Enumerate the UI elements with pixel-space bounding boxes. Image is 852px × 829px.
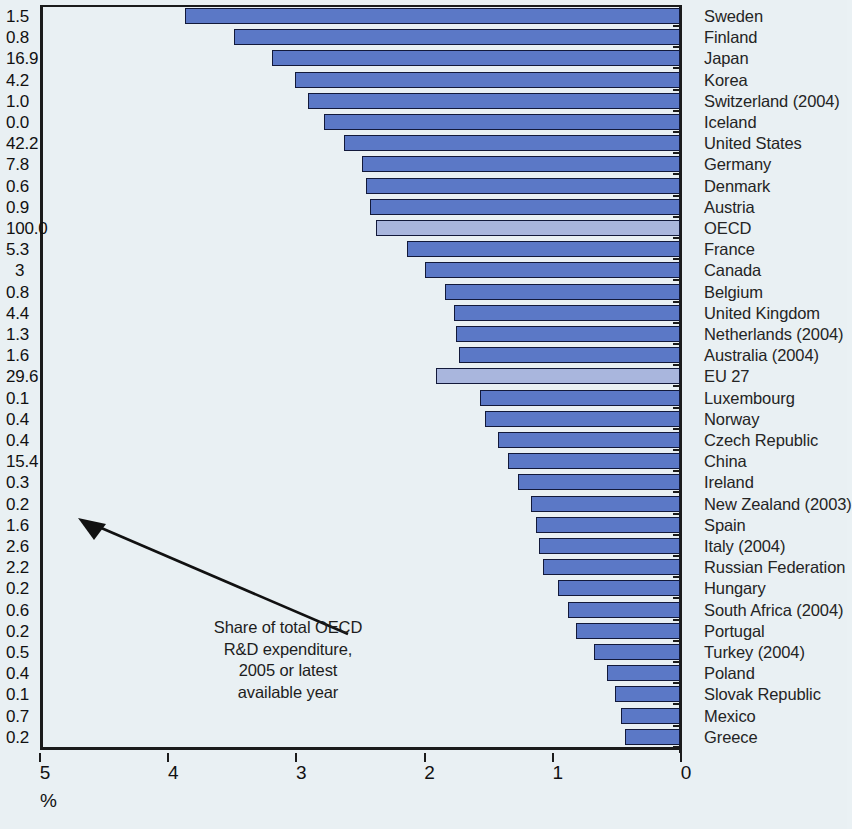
bar bbox=[308, 93, 680, 109]
category-label: Denmark bbox=[704, 176, 770, 197]
chart-row: 0.0Iceland bbox=[0, 112, 847, 133]
category-label: Finland bbox=[704, 27, 757, 48]
category-label: Portugal bbox=[704, 621, 765, 642]
share-value: 0.5 bbox=[6, 642, 84, 663]
x-axis-tick bbox=[552, 753, 554, 762]
bar bbox=[362, 156, 680, 172]
chart-row: 0.9Austria bbox=[0, 197, 847, 218]
bar bbox=[324, 114, 680, 130]
category-label: Belgium bbox=[704, 282, 763, 303]
category-label: Italy (2004) bbox=[704, 536, 785, 557]
share-value: 0.4 bbox=[6, 430, 84, 451]
bar bbox=[508, 453, 680, 469]
x-axis-tick bbox=[39, 753, 41, 762]
chart-row: 1.6Australia (2004) bbox=[0, 345, 847, 366]
x-axis-tick bbox=[680, 753, 682, 762]
category-label: Poland bbox=[704, 663, 755, 684]
category-label: Turkey (2004) bbox=[704, 642, 805, 663]
bar bbox=[370, 199, 680, 215]
category-label: Spain bbox=[704, 515, 746, 536]
bar bbox=[234, 29, 680, 45]
bar bbox=[607, 665, 680, 681]
category-label: Switzerland (2004) bbox=[704, 91, 840, 112]
category-label: France bbox=[704, 239, 755, 260]
share-value: 0.1 bbox=[6, 684, 84, 705]
share-value: 4.2 bbox=[6, 70, 84, 91]
bar bbox=[576, 623, 680, 639]
category-label: Ireland bbox=[704, 472, 754, 493]
share-value: 0.4 bbox=[6, 409, 84, 430]
bar bbox=[594, 644, 680, 660]
chart-row: 1.3Netherlands (2004) bbox=[0, 324, 847, 345]
share-value: 42.2 bbox=[6, 133, 84, 154]
chart-row: 1.5Sweden bbox=[0, 6, 847, 27]
annotation-line-4: available year bbox=[172, 682, 404, 704]
category-label: Netherlands (2004) bbox=[704, 324, 843, 345]
category-label: Luxembourg bbox=[704, 388, 795, 409]
bar bbox=[425, 262, 680, 278]
share-value: 4.4 bbox=[6, 303, 84, 324]
bar bbox=[568, 602, 680, 618]
bar bbox=[485, 411, 680, 427]
chart-row: 0.7Mexico bbox=[0, 706, 847, 727]
bar bbox=[407, 241, 680, 257]
share-value: 0.4 bbox=[6, 663, 84, 684]
share-value: 0.1 bbox=[6, 388, 84, 409]
row-tick bbox=[673, 746, 682, 748]
share-value: 29.6 bbox=[6, 366, 84, 387]
chart-row: 0.5Turkey (2004) bbox=[0, 642, 847, 663]
share-value: 1.0 bbox=[6, 91, 84, 112]
bar bbox=[366, 178, 680, 194]
bar bbox=[625, 729, 680, 745]
annotation-line-2: R&D expenditure, bbox=[172, 639, 404, 661]
bar bbox=[480, 390, 680, 406]
bar bbox=[539, 538, 680, 554]
share-value: 3 bbox=[6, 260, 93, 281]
share-value: 0.0 bbox=[6, 112, 84, 133]
chart-row: 4.2Korea bbox=[0, 70, 847, 91]
bar bbox=[459, 347, 680, 363]
bar bbox=[615, 686, 680, 702]
share-value: 15.4 bbox=[6, 451, 84, 472]
category-label: United States bbox=[704, 133, 802, 154]
bar bbox=[498, 432, 680, 448]
category-label: Canada bbox=[704, 260, 761, 281]
bar bbox=[436, 368, 680, 384]
x-axis-tick-label: 4 bbox=[168, 762, 179, 784]
chart-row: 0.2Greece bbox=[0, 727, 847, 748]
bar bbox=[344, 135, 680, 151]
bar bbox=[518, 474, 680, 490]
share-value: 0.8 bbox=[6, 282, 84, 303]
category-label: Australia (2004) bbox=[704, 345, 819, 366]
category-label: Greece bbox=[704, 727, 758, 748]
annotation-line-1: Share of total OECD bbox=[172, 617, 404, 639]
x-axis-tick bbox=[295, 753, 297, 762]
x-axis-tick-label: 5 bbox=[40, 762, 51, 784]
bar bbox=[445, 284, 680, 300]
share-value: 0.8 bbox=[6, 27, 84, 48]
chart-row: 0.8Finland bbox=[0, 27, 847, 48]
x-axis-tick bbox=[424, 753, 426, 762]
chart-row: 15.4China bbox=[0, 451, 847, 472]
chart-row: 42.2United States bbox=[0, 133, 847, 154]
category-label: New Zealand (2003) bbox=[704, 494, 852, 515]
bar bbox=[558, 580, 680, 596]
category-label: South Africa (2004) bbox=[704, 600, 843, 621]
share-value: 7.8 bbox=[6, 154, 84, 175]
category-label: China bbox=[704, 451, 747, 472]
share-value: 1.3 bbox=[6, 324, 84, 345]
chart-row: 0.1Slovak Republic bbox=[0, 684, 847, 705]
category-label: United Kingdom bbox=[704, 303, 820, 324]
category-label: Russian Federation bbox=[704, 557, 845, 578]
share-value: 1.5 bbox=[6, 6, 84, 27]
bar bbox=[185, 8, 680, 24]
chart-row: 29.6EU 27 bbox=[0, 366, 847, 387]
share-value: 16.9 bbox=[6, 48, 84, 69]
chart-row: 0.1Luxembourg bbox=[0, 388, 847, 409]
category-label: Hungary bbox=[704, 578, 766, 599]
chart-row: 7.8Germany bbox=[0, 154, 847, 175]
share-value: 0.9 bbox=[6, 197, 84, 218]
chart-row: 4.4United Kingdom bbox=[0, 303, 847, 324]
category-label: OECD bbox=[704, 218, 751, 239]
